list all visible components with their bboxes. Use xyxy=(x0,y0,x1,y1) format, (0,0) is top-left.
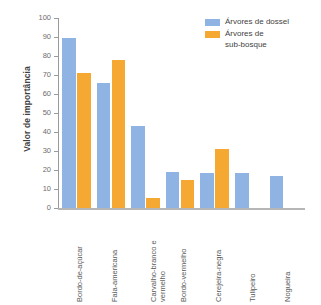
legend-item: Árvores de dossel xyxy=(205,16,321,27)
y-tick-label: 20 xyxy=(43,165,51,175)
y-tick-label: 90 xyxy=(43,32,51,42)
bar xyxy=(62,38,76,208)
bar xyxy=(235,173,249,208)
y-tick-label: 0 xyxy=(47,203,51,213)
bar xyxy=(166,172,180,208)
y-axis-title: Valor de importância xyxy=(22,29,32,189)
x-tick-label: Nogueira xyxy=(284,210,293,302)
bar xyxy=(77,73,91,208)
x-tick-label: Cerejeira-negra xyxy=(215,210,224,302)
bar xyxy=(131,126,145,208)
x-tick-label: Carvalho-branco e vermelho xyxy=(150,210,167,302)
bar-chart: Valor de importância 1009080706050403020… xyxy=(0,0,321,305)
legend-swatch xyxy=(205,31,220,38)
y-tick-label: 50 xyxy=(43,108,51,118)
y-tick-label: 60 xyxy=(43,89,51,99)
bar xyxy=(181,180,195,208)
legend: Árvores de dosselÁrvores de sub-bosque xyxy=(205,16,321,51)
bar xyxy=(112,60,126,208)
y-tick-label: 100 xyxy=(38,13,51,23)
legend-label: Árvores de dossel xyxy=(225,16,289,27)
x-tick-label: Faia-americana xyxy=(111,210,120,302)
y-tick-label: 80 xyxy=(43,51,51,61)
legend-label: Árvores de sub-bosque xyxy=(225,28,267,50)
y-tick-label: 40 xyxy=(43,127,51,137)
bar xyxy=(97,83,111,208)
bar xyxy=(270,176,284,208)
x-tick-label: Bordo-vermelho xyxy=(180,210,189,302)
legend-swatch xyxy=(205,19,220,26)
bar xyxy=(146,198,160,208)
legend-item: Árvores de sub-bosque xyxy=(205,28,321,50)
bar xyxy=(215,149,229,208)
x-axis-labels: Bordo-de-açúcarFaia-americanaCarvalho-br… xyxy=(58,210,305,305)
x-tick-label: Bordo-de-açúcar xyxy=(76,210,85,302)
y-tick-label: 10 xyxy=(43,184,51,194)
bar xyxy=(200,173,214,208)
x-tick-label: Tulipeiro xyxy=(249,210,258,302)
y-tick-label: 70 xyxy=(43,70,51,80)
y-tick-label: 30 xyxy=(43,146,51,156)
